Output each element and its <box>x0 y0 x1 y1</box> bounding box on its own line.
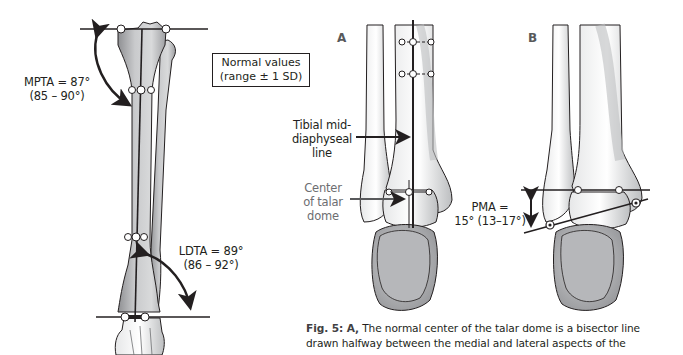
center-of-talar-dome-label: Center of talar dome <box>298 181 348 223</box>
midline-label-line-3: line <box>288 146 356 160</box>
caption-prefix: Fig. 5: A, <box>306 322 359 334</box>
midline-label-line-2: diaphyseal <box>288 132 356 146</box>
talar-label-line-1: Center <box>298 181 348 195</box>
tibial-mid-diaphyseal-line-label: Tibial mid- diaphyseal line <box>288 118 356 160</box>
ldta-label: LDTA = 89° (86 – 92°) <box>176 244 246 272</box>
mpta-range: (85 – 90°) <box>22 89 92 103</box>
mpta-label: MPTA = 87° (85 – 90°) <box>22 75 92 103</box>
ldta-range: (86 – 92°) <box>176 258 246 272</box>
caption-line-2: drawn halfway between the medial and lat… <box>306 336 683 351</box>
panel-b-ankle-illustration <box>521 25 650 310</box>
panel-a-ankle-illustration <box>350 20 452 310</box>
normal-values-legend: Normal values (range ± 1 SD) <box>212 53 310 87</box>
talar-label-line-2: of talar <box>298 195 348 209</box>
ldta-value: LDTA = 89° <box>176 244 246 258</box>
pma-line-2: 15° (13–17°) <box>452 214 528 228</box>
mpta-value: MPTA = 87° <box>22 75 92 89</box>
legend-line-2: (range ± 1 SD) <box>213 70 309 84</box>
left-tibia-illustration <box>80 22 210 355</box>
talar-label-line-3: dome <box>298 209 348 223</box>
caption-line-1: Fig. 5: A, The normal center of the tala… <box>306 321 683 336</box>
figure-caption: Fig. 5: A, The normal center of the tala… <box>306 321 683 351</box>
legend-line-1: Normal values <box>213 56 309 70</box>
midline-label-line-1: Tibial mid- <box>288 118 356 132</box>
panel-b-letter: B <box>528 31 537 45</box>
pma-label: PMA = 15° (13–17°) <box>452 200 528 228</box>
caption-text-1: The normal center of the talar dome is a… <box>359 322 640 334</box>
pma-line-1: PMA = <box>452 200 528 214</box>
panel-a-letter: A <box>337 31 346 45</box>
